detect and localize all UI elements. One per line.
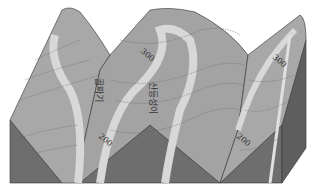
ridge-label: 산등성이 <box>148 82 158 114</box>
valley-label: 골짜기 <box>94 78 104 102</box>
topographic-block-diagram: 골짜기 산등성이 300 300 200 200 <box>0 0 328 192</box>
